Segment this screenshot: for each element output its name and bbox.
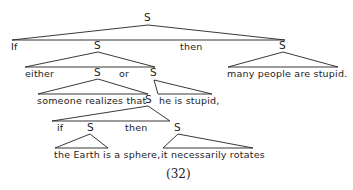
node-s-many: S: [279, 40, 286, 51]
word-if-top: If: [11, 41, 18, 52]
branch-if-then: [52, 106, 170, 121]
branch-he: [154, 80, 212, 94]
node-s-either-or: S: [94, 40, 101, 51]
node-s-rotates: S: [174, 122, 181, 133]
word-if-inner: if: [57, 122, 63, 133]
word-then-inner: then: [125, 122, 147, 133]
branch-earth: [55, 134, 108, 148]
word-then-top: then: [180, 41, 202, 52]
branch-someone: [38, 79, 148, 94]
word-rotates: it necessarily rotates: [161, 149, 265, 160]
word-or: or: [119, 68, 129, 79]
branch-root: [12, 25, 285, 40]
word-many-people: many people are stupid.: [227, 68, 347, 79]
branch-many: [228, 52, 338, 67]
word-someone-realizes: someone realizes that: [37, 95, 147, 106]
figure-caption: (32): [166, 168, 191, 181]
node-s-he: S: [150, 67, 157, 78]
word-he-is-stupid: he is stupid,: [159, 95, 220, 106]
branch-either-or: [25, 52, 155, 67]
word-earth-sphere: the Earth is a sphere,: [54, 149, 160, 160]
syntax-tree-diagram: S S S S S S S S If then either or many p…: [0, 0, 353, 190]
word-either: either: [25, 68, 54, 79]
branch-rotates: [163, 134, 253, 148]
node-s-someone: S: [94, 67, 101, 78]
node-s-earth: S: [87, 122, 94, 133]
node-s-root: S: [144, 12, 151, 23]
